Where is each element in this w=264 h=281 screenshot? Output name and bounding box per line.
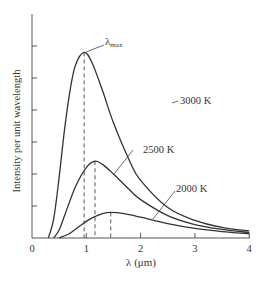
x-axis-label: λ (μm) bbox=[126, 256, 156, 269]
label-2000k: 2000 K bbox=[176, 183, 208, 194]
leader-2000 bbox=[153, 191, 175, 219]
lambda-max-label: λmax bbox=[105, 35, 123, 49]
x-tick-label: 4 bbox=[247, 243, 253, 254]
label-3000k: 3000 K bbox=[180, 95, 212, 106]
curve-2000k bbox=[59, 212, 249, 238]
y-axis-label: Intensity per unit wavelength bbox=[11, 69, 22, 193]
blackbody-chart: 01234 λmax 3000 K 2500 K 2000 K λ (μm) I… bbox=[0, 0, 264, 281]
x-tick-label: 2 bbox=[138, 243, 143, 254]
x-tick-label: 3 bbox=[192, 243, 197, 254]
x-tick-label: 0 bbox=[29, 243, 34, 254]
y-ticks bbox=[32, 46, 37, 206]
label-2500k: 2500 K bbox=[143, 144, 175, 155]
leader-3000 bbox=[172, 101, 178, 103]
peak-dashed-lines bbox=[84, 52, 111, 238]
lambda-max-leader bbox=[86, 45, 104, 52]
x-tick-label: 1 bbox=[84, 243, 89, 254]
